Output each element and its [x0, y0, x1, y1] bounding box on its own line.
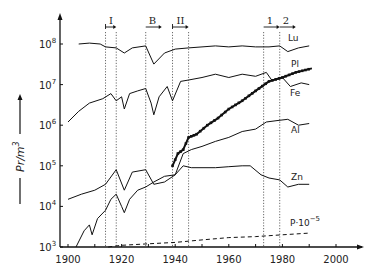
series-marker [185, 142, 188, 145]
y-tick-label: 106 [39, 118, 57, 131]
series-marker [234, 104, 237, 107]
period-label: 2 [283, 15, 289, 26]
series-marker [264, 82, 267, 85]
series-marker [251, 92, 254, 95]
series-marker [199, 130, 202, 133]
series-marker [238, 102, 241, 105]
series-marker [258, 87, 261, 90]
x-tick-label: 1920 [109, 254, 134, 265]
series-marker [220, 114, 223, 117]
series-marker [193, 134, 196, 137]
series-marker [174, 158, 177, 161]
period-arrow-icon [293, 25, 296, 29]
series-line [173, 68, 312, 165]
series-label-fe: Fe [290, 88, 301, 98]
series-marker [295, 71, 298, 74]
series-marker [288, 74, 291, 77]
x-tick-label: 2000 [323, 254, 348, 265]
series-marker [190, 135, 193, 138]
series-line [108, 233, 309, 247]
series-marker [224, 111, 227, 114]
period-label: 1 [267, 15, 273, 26]
series-label-zn: Zn [291, 172, 303, 182]
series-marker [231, 106, 234, 109]
series-marker [177, 152, 180, 155]
series-marker [278, 77, 281, 80]
period-arrow-icon [186, 25, 189, 29]
y-tick-label: 103 [39, 240, 56, 253]
series-marker [228, 108, 231, 111]
series-marker [244, 97, 247, 100]
series-marker [187, 136, 190, 139]
x-tick-label: 1940 [162, 254, 187, 265]
x-tick-label: 1900 [55, 254, 80, 265]
series-marker [179, 150, 182, 153]
series-marker [307, 68, 310, 71]
period-arrow-icon [113, 25, 116, 29]
series-marker [301, 70, 304, 73]
x-tick-label: 1980 [270, 254, 295, 265]
x-axis-arrow-icon [357, 245, 364, 250]
series-marker [195, 133, 198, 136]
series-marker [281, 76, 284, 79]
series-marker [213, 119, 216, 122]
series-line [68, 119, 309, 199]
period-label: II [177, 15, 185, 26]
series-line [79, 43, 310, 64]
series-marker [182, 148, 185, 151]
x-tick-label: 1960 [216, 254, 241, 265]
series-labels: Lu Pl Fe Al Zn P·10−5 [288, 33, 320, 228]
series-line [76, 166, 309, 247]
period-label: I [109, 15, 113, 26]
series-label-p: P·10−5 [290, 215, 320, 228]
chart: 190019201940196019802000 103104105106107… [0, 0, 390, 279]
y-axis-label: Pr/m3 [12, 94, 27, 204]
series-marker [274, 78, 277, 81]
series-label-al: Al [291, 125, 300, 135]
series-marker [171, 165, 174, 168]
series-marker [206, 124, 209, 127]
y-tick-label: 107 [39, 78, 56, 91]
y-label-text: Pr/m3 [12, 141, 27, 172]
series-marker [248, 95, 251, 98]
y-tick-label: 104 [39, 199, 57, 212]
series-marker [298, 70, 301, 73]
series-marker [284, 75, 287, 78]
y-tick-label: 108 [39, 37, 56, 50]
y-tick-label: 105 [39, 159, 56, 172]
period-label: B [149, 15, 156, 26]
series-label-lu: Lu [288, 33, 299, 43]
series-marker [254, 90, 257, 93]
series-marker [304, 69, 307, 72]
series-marker [268, 80, 271, 83]
series-label-pl: Pl [291, 59, 299, 69]
series-marker [210, 122, 213, 125]
y-label-arrow-icon [18, 94, 23, 100]
series-group [68, 43, 312, 247]
series-marker [261, 85, 264, 88]
series-marker [241, 99, 244, 102]
period-arrow-icon [159, 25, 162, 29]
period-arrow-icon [277, 25, 280, 29]
series-marker [217, 117, 220, 120]
y-axis-arrow-icon [58, 13, 63, 20]
series-marker [202, 127, 205, 130]
series-marker [271, 79, 274, 82]
series-marker [291, 72, 294, 75]
